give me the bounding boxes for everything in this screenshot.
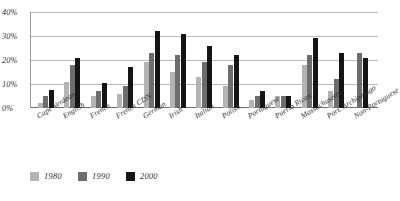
y-axis-tick-label: 0% bbox=[2, 104, 30, 113]
bar bbox=[155, 31, 160, 108]
legend-label: 1990 bbox=[92, 172, 110, 181]
x-axis-tick: Polish bbox=[218, 109, 244, 169]
y-axis-tick-label: 20% bbox=[2, 56, 30, 65]
legend-swatch bbox=[78, 172, 87, 181]
bar-group bbox=[86, 12, 112, 108]
bar bbox=[234, 55, 239, 108]
y-axis-tick-label: 10% bbox=[2, 80, 30, 89]
x-axis: Cape VerdeanEnglishFrenchFrench CDNGerma… bbox=[31, 109, 378, 169]
legend-item: 1980 bbox=[30, 172, 62, 181]
x-axis-tick: English bbox=[59, 109, 85, 169]
x-axis-tick: Italian bbox=[191, 109, 217, 169]
legend-label: 2000 bbox=[140, 172, 158, 181]
x-axis-tick: French bbox=[86, 109, 112, 169]
bar bbox=[181, 34, 186, 108]
x-axis-tick: French CDN bbox=[112, 109, 138, 169]
bar bbox=[363, 58, 368, 108]
x-axis-tick: Cape Verdean bbox=[33, 109, 59, 169]
x-axis-tick: Massachusetts bbox=[297, 109, 323, 169]
bar bbox=[170, 72, 175, 108]
x-axis-tick: Puerto Rican bbox=[271, 109, 297, 169]
legend-swatch bbox=[126, 172, 135, 181]
legend-label: 1980 bbox=[44, 172, 62, 181]
bar-group bbox=[165, 12, 191, 108]
bar-group bbox=[218, 12, 244, 108]
bar-group bbox=[33, 12, 59, 108]
x-axis-tick: Portuguese bbox=[244, 109, 270, 169]
x-axis-tick: German bbox=[139, 109, 165, 169]
bar bbox=[207, 46, 212, 108]
bar-group bbox=[244, 12, 270, 108]
bar bbox=[223, 86, 228, 108]
x-axis-tick: Irish bbox=[165, 109, 191, 169]
y-axis-tick-label: 40% bbox=[2, 8, 30, 17]
y-axis-tick-label: 30% bbox=[2, 32, 30, 41]
x-axis-tick: Non-Portuguese bbox=[350, 109, 376, 169]
bar bbox=[228, 65, 233, 108]
bar bbox=[202, 62, 207, 108]
legend-swatch bbox=[30, 172, 39, 181]
bar bbox=[313, 38, 318, 108]
legend-item: 2000 bbox=[126, 172, 158, 181]
bar bbox=[70, 65, 75, 108]
y-axis: 0%10%20%30%40% bbox=[0, 12, 30, 108]
legend-item: 1990 bbox=[78, 172, 110, 181]
bar bbox=[91, 96, 96, 108]
x-axis-tick: Port. Archipelago bbox=[323, 109, 349, 169]
bar-group bbox=[112, 12, 138, 108]
bar-group bbox=[191, 12, 217, 108]
bars-layer bbox=[31, 12, 378, 108]
bar bbox=[196, 77, 201, 108]
chart-legend: 198019902000 bbox=[30, 172, 158, 181]
bar bbox=[175, 55, 180, 108]
bar bbox=[117, 94, 122, 108]
